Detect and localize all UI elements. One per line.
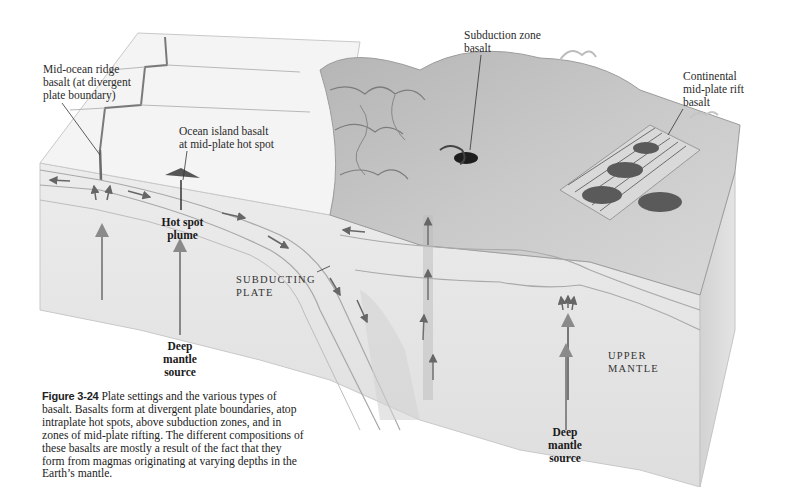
label-ocean-island-basalt: Ocean island basalt at mid-plate hot spo… [179, 125, 274, 151]
label-line: Continental [683, 70, 744, 83]
label-hot-spot-plume: Hot spot plume [155, 216, 210, 242]
subduction-magma-column [423, 215, 433, 400]
label-line: plate boundary) [43, 89, 131, 102]
label-line: source [150, 366, 210, 379]
label-line: Ocean island basalt [179, 125, 274, 138]
label-line: Deep [535, 426, 595, 439]
label-upper-mantle: UPPER MANTLE [608, 349, 659, 375]
figure-caption-text: Plate settings and the various types of … [42, 390, 304, 480]
label-line: basalt [464, 42, 541, 55]
label-mid-ocean-ridge-basalt: Mid-ocean ridge basalt (at divergent pla… [43, 63, 131, 102]
label-deep-mantle-source-right: Deep mantle source [535, 426, 595, 465]
label-subduction-zone-basalt: Subduction zone basalt [464, 29, 541, 55]
label-line: SUBDUCTING [236, 273, 316, 286]
label-line: source [535, 452, 595, 465]
label-line: Deep [150, 340, 210, 353]
label-continental-rift-basalt: Continental mid-plate rift basalt [683, 70, 744, 109]
label-line: mantle [535, 439, 595, 452]
label-deep-mantle-source-left: Deep mantle source [150, 340, 210, 379]
label-line: Hot spot [155, 216, 210, 229]
label-line: mid-plate rift [683, 83, 744, 96]
label-line: MANTLE [608, 362, 659, 375]
label-line: PLATE [236, 286, 316, 299]
label-line: mantle [150, 353, 210, 366]
label-line: basalt [683, 96, 744, 109]
figure-number: Figure 3-24 [42, 390, 99, 402]
figure-caption: Figure 3-24 Plate settings and the vario… [42, 390, 304, 481]
label-line: plume [155, 229, 210, 242]
label-line: at mid-plate hot spot [179, 138, 274, 151]
label-line: Mid-ocean ridge [43, 63, 131, 76]
label-line: UPPER [608, 349, 659, 362]
label-subducting-plate: SUBDUCTING PLATE [236, 273, 316, 299]
subduction-basalt-flow [454, 152, 478, 164]
label-line: basalt (at divergent [43, 76, 131, 89]
label-line: Subduction zone [464, 29, 541, 42]
